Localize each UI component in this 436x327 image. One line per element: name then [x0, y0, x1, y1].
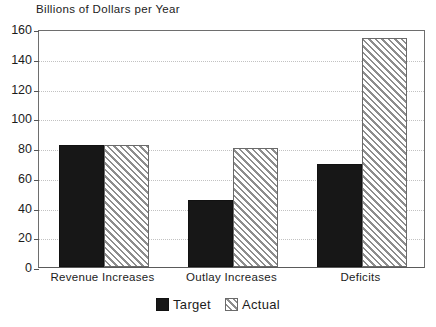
y-axis-tick-label: 100: [11, 112, 32, 126]
y-axis-tick-mark: [34, 269, 39, 270]
chart-legend: Target Actual: [0, 297, 436, 312]
bar-target: [59, 145, 104, 267]
y-axis-tick-label: 160: [11, 23, 32, 37]
y-axis-tick-mark: [34, 180, 39, 181]
legend-label-target: Target: [173, 297, 211, 312]
chart-title: Billions of Dollars per Year: [36, 3, 180, 15]
y-axis-tick-mark: [34, 61, 39, 62]
bar-target: [188, 200, 233, 267]
y-axis-tick-label: 20: [18, 231, 32, 245]
y-axis-tick-labels: 020406080100120140160: [0, 30, 32, 268]
x-axis-category-label: Outlay Increases: [186, 271, 277, 283]
bar-actual: [104, 145, 149, 267]
bar-chart-figure: Billions of Dollars per Year 02040608010…: [0, 0, 436, 327]
bar-actual: [233, 148, 278, 267]
legend-swatch-actual-icon: [225, 298, 238, 311]
y-axis-tick-label: 80: [18, 142, 32, 156]
legend-label-actual: Actual: [242, 297, 280, 312]
bar-actual: [362, 38, 407, 267]
y-axis-tick-label: 40: [18, 202, 32, 216]
y-axis-tick-label: 60: [18, 172, 32, 186]
y-axis-tick-label: 140: [11, 53, 32, 67]
y-axis-tick-mark: [34, 210, 39, 211]
y-axis-tick-mark: [34, 91, 39, 92]
y-axis-tick-label: 120: [11, 83, 32, 97]
x-axis-category-label: Revenue Increases: [50, 271, 154, 283]
y-axis-tick-label: 0: [25, 261, 32, 275]
y-axis-tick-mark: [34, 150, 39, 151]
legend-entry-actual: Actual: [225, 297, 280, 312]
y-axis-tick-mark: [34, 120, 39, 121]
y-axis-tick-mark: [34, 239, 39, 240]
x-axis-category-label: Deficits: [340, 271, 380, 283]
bar-target: [317, 164, 362, 267]
plot-area: [38, 30, 425, 268]
legend-entry-target: Target: [156, 297, 211, 312]
y-axis-tick-mark: [34, 31, 39, 32]
legend-swatch-target-icon: [156, 298, 169, 311]
